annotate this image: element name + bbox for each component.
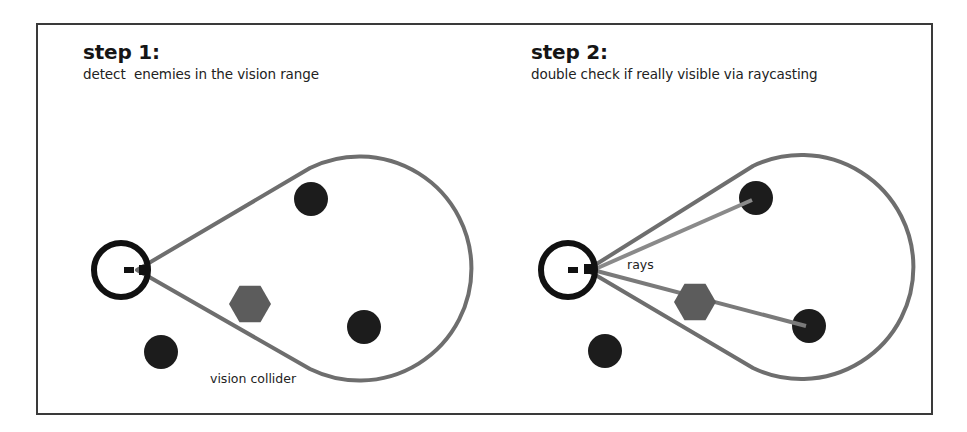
enemy-dot (144, 335, 178, 369)
panel-step-1 (94, 157, 471, 381)
obstacle-hexagon (674, 284, 716, 320)
player-eye-marker (568, 267, 578, 273)
player-eye-marker (124, 267, 134, 273)
ray-line (593, 200, 752, 270)
cone-apex-marker (139, 265, 147, 275)
enemy-dot (588, 334, 622, 368)
obstacle-hexagon (229, 286, 271, 322)
enemy-dot (739, 181, 773, 215)
panel-step-2 (541, 155, 913, 379)
vision-collider-label: vision collider (210, 371, 296, 386)
enemy-dot (347, 310, 381, 344)
enemy-dot (294, 182, 328, 216)
enemy-dot (792, 309, 826, 343)
cone-apex-marker (584, 264, 596, 274)
rays-label: rays (627, 257, 654, 272)
diagram-canvas (0, 0, 967, 432)
